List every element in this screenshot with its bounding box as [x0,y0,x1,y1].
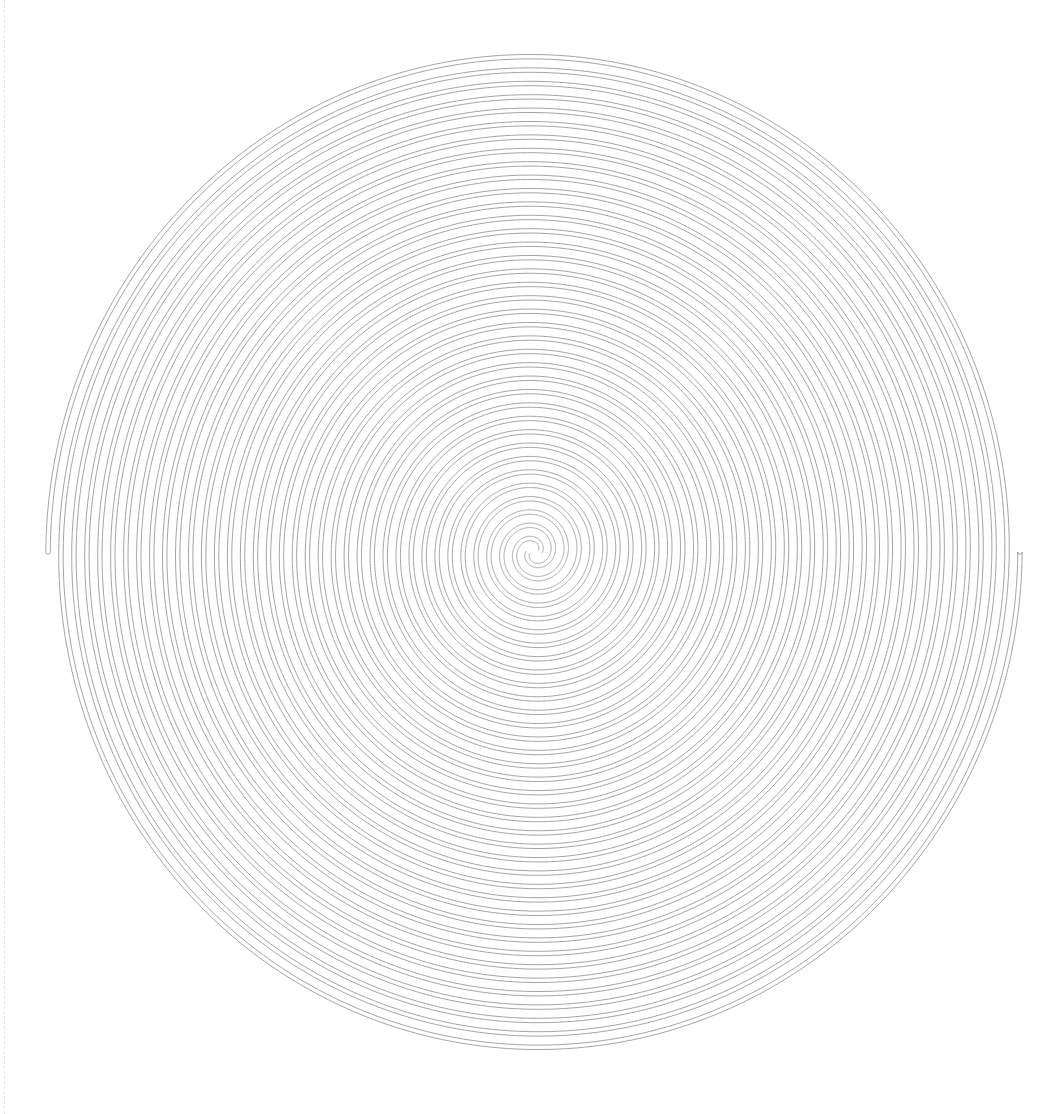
spiral-lines [46,55,1022,1050]
double-spiral-drawing [0,0,1055,1114]
spiral-canvas [0,0,1055,1114]
